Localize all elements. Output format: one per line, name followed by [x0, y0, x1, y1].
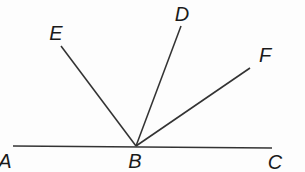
label-f: F — [259, 45, 271, 65]
angle-diagram: E D F A B C — [0, 0, 305, 172]
label-e: E — [49, 23, 62, 43]
label-b: B — [128, 151, 141, 171]
label-c: C — [268, 152, 282, 172]
ray-bf — [136, 68, 250, 146]
label-d: D — [175, 4, 189, 24]
line-ac — [13, 146, 272, 148]
ray-be — [61, 46, 136, 146]
label-a: A — [0, 151, 12, 171]
diagram-lines — [0, 0, 305, 172]
ray-bd — [136, 26, 181, 146]
